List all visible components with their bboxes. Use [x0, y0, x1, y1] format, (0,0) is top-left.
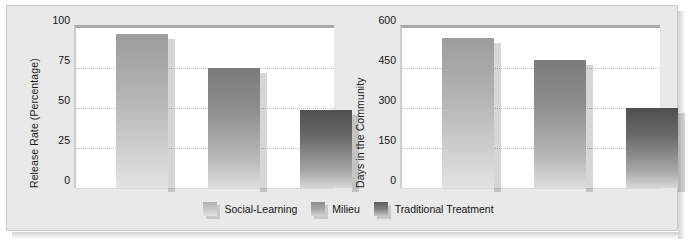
bar-days-traditional: [626, 108, 678, 188]
chart-panel-release-rate: Release Rate (Percentage) 100 75 50 25 0: [14, 10, 344, 220]
y-tick-label: 150: [356, 135, 396, 145]
bar-fill: [116, 34, 168, 188]
chart-legend: Social-Learning Milieu Traditional Treat…: [0, 196, 697, 222]
y-tick-label: 300: [356, 95, 396, 105]
y-tick-label: 600: [356, 15, 396, 25]
bar-shadow: [168, 39, 175, 192]
bar-shadow: [586, 65, 593, 192]
legend-swatch-icon: [311, 202, 325, 216]
bar-shadow: [494, 43, 501, 192]
gridline: [402, 148, 660, 149]
plot-area-release-rate: [74, 25, 334, 188]
bar-fill: [534, 60, 586, 188]
gridline: [76, 148, 334, 149]
bar-release-milieu: [208, 68, 260, 188]
legend-item-milieu: Milieu: [311, 202, 359, 216]
axis-baseline: [76, 188, 334, 189]
legend-label: Traditional Treatment: [395, 203, 494, 215]
legend-label: Milieu: [332, 203, 359, 215]
legend-item-traditional-treatment: Traditional Treatment: [374, 202, 494, 216]
gridline: [76, 68, 334, 69]
legend-item-social-learning: Social-Learning: [203, 202, 297, 216]
y-axis-ticks-release-rate: 100 75 50 25 0: [28, 20, 70, 185]
y-tick-label: 450: [356, 55, 396, 65]
bar-fill: [442, 38, 494, 188]
axis-baseline: [402, 188, 660, 189]
bar-fill: [208, 68, 260, 188]
gridline: [402, 68, 660, 69]
bar-fill: [626, 108, 678, 188]
bar-days-social-learning: [442, 38, 494, 188]
y-tick-label: 0: [356, 175, 396, 185]
y-tick-label: 100: [30, 15, 70, 25]
figure-container: Release Rate (Percentage) 100 75 50 25 0: [0, 0, 697, 249]
legend-label: Social-Learning: [224, 203, 297, 215]
gridline: [76, 108, 334, 109]
legend-swatch-icon: [203, 202, 217, 216]
plot-area-days-in-community: [400, 25, 660, 188]
chart-panel-days-in-community: Days in the Community 600 450 300 150 0: [340, 10, 670, 220]
y-tick-label: 0: [30, 175, 70, 185]
plate-drop-shadow-bottom: [12, 232, 684, 239]
y-tick-label: 75: [30, 55, 70, 65]
y-tick-label: 50: [30, 95, 70, 105]
gridline: [402, 108, 660, 109]
bar-release-social-learning: [116, 34, 168, 188]
bar-shadow: [260, 73, 267, 192]
y-axis-ticks-days-in-community: 600 450 300 150 0: [354, 20, 396, 185]
bar-shadow: [678, 113, 685, 192]
legend-swatch-icon: [374, 202, 388, 216]
bar-days-milieu: [534, 60, 586, 188]
y-tick-label: 25: [30, 135, 70, 145]
